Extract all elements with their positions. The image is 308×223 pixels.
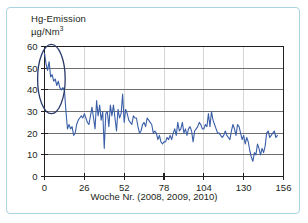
y-tick-label: 10 xyxy=(27,149,38,160)
x-axis-title: Woche Nr. (2008, 2009, 2010) xyxy=(0,191,308,202)
y-tick-label: 40 xyxy=(27,84,38,95)
y-tick-label: 50 xyxy=(27,63,38,74)
y-tick-label: 20 xyxy=(27,128,38,139)
line-chart: 01020304050600265278104130156 xyxy=(0,0,308,223)
y-tick-label: 60 xyxy=(27,41,38,52)
chart-plot-container: 01020304050600265278104130156 xyxy=(0,0,308,223)
axis-tick-marks xyxy=(41,47,284,181)
ellipse-highlight-annotation xyxy=(38,44,66,113)
y-tick-label: 0 xyxy=(32,171,37,182)
data-series-line xyxy=(45,53,278,161)
y-tick-label: 30 xyxy=(27,106,38,117)
